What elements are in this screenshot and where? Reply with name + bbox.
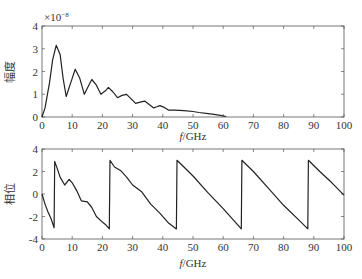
top-y-exponent: ×10−8: [44, 11, 69, 23]
y-tick-label: 0: [33, 111, 39, 123]
amplitude-plot: 010203040506070809010001234: [33, 20, 353, 131]
top-y-axis-label: 幅度: [3, 61, 16, 83]
y-tick-label: -2: [29, 211, 38, 223]
y-tick-label: 4: [33, 20, 39, 32]
x-tick-label: 10: [67, 241, 79, 253]
x-tick-label: 100: [336, 241, 353, 253]
x-tick-label: 90: [308, 119, 320, 131]
y-tick-label: 3: [33, 43, 39, 55]
x-tick-label: 10: [67, 119, 79, 131]
phase-plot: 0102030405060708090100-4-2024: [29, 143, 353, 253]
y-tick-label: 1: [33, 88, 39, 100]
x-tick-label: 30: [127, 241, 139, 253]
amplitude-line: [42, 45, 226, 117]
x-tick-label: 40: [157, 241, 169, 253]
x-tick-label: 40: [157, 119, 169, 131]
x-tick-label: 80: [278, 241, 290, 253]
x-tick-label: 30: [127, 119, 139, 131]
bottom-y-axis-label: 相位: [3, 183, 16, 205]
plot-frame: [42, 26, 344, 117]
x-tick-label: 60: [218, 241, 230, 253]
plot-frame: [42, 149, 344, 239]
phase-line: [42, 160, 344, 229]
x-tick-label: 70: [248, 241, 260, 253]
x-tick-label: 80: [278, 119, 290, 131]
x-tick-label: 90: [308, 241, 320, 253]
y-tick-label: 2: [33, 166, 39, 178]
y-tick-label: 0: [33, 188, 39, 200]
x-tick-label: 50: [188, 241, 200, 253]
x-tick-label: 60: [218, 119, 230, 131]
chart-figure: 010203040506070809010001234 010203040506…: [0, 0, 362, 279]
x-tick-label: 100: [336, 119, 353, 131]
x-tick-label: 70: [248, 119, 260, 131]
x-tick-label: 20: [97, 119, 109, 131]
x-tick-label: 20: [97, 241, 109, 253]
x-tick-label: 0: [39, 241, 45, 253]
x-tick-label: 0: [39, 119, 45, 131]
y-tick-label: 2: [33, 66, 39, 78]
bottom-x-axis-label: f/GHz: [180, 257, 207, 269]
y-tick-label: -4: [29, 233, 39, 245]
y-tick-label: 4: [33, 143, 39, 155]
top-x-axis-label: f/GHz: [180, 130, 207, 142]
